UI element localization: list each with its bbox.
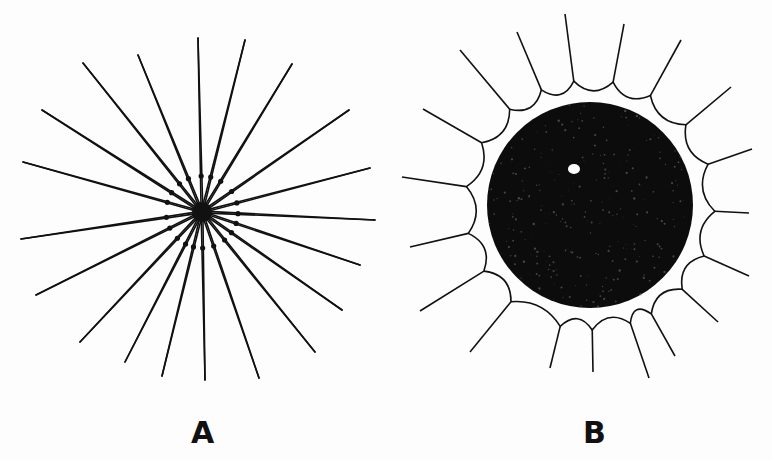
diagram-canvas <box>0 0 772 460</box>
panel-b-spherical-body <box>402 14 752 378</box>
panel-label-b: B <box>583 418 606 448</box>
panel-a-radiating-spines <box>21 38 375 380</box>
panel-label-a: A <box>191 418 214 448</box>
